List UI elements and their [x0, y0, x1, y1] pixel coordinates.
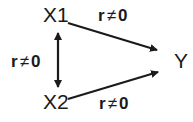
- node-x1: X1: [43, 4, 69, 25]
- node-x2: X2: [43, 91, 69, 112]
- not-equal-sign: ≠: [107, 6, 116, 25]
- node-x2-label: X2: [43, 90, 69, 113]
- correlation-symbol: r: [11, 52, 18, 71]
- node-y-label: Y: [174, 49, 188, 72]
- node-y: Y: [174, 50, 188, 71]
- zero-value: 0: [119, 94, 128, 113]
- zero-value: 0: [31, 52, 40, 71]
- node-x1-label: X1: [43, 3, 69, 26]
- correlation-symbol: r: [99, 94, 106, 113]
- edge-label-x2-y: r≠0: [99, 95, 128, 112]
- arrow-x1-to-y: [68, 23, 157, 50]
- edge-label-x1-x2: r≠0: [11, 53, 40, 70]
- not-equal-sign: ≠: [20, 52, 29, 71]
- edge-label-x1-y: r≠0: [98, 7, 127, 24]
- zero-value: 0: [118, 6, 127, 25]
- path-diagram: X1 X2 Y r≠0 r≠0 r≠0: [0, 0, 193, 122]
- not-equal-sign: ≠: [108, 94, 117, 113]
- correlation-symbol: r: [98, 6, 105, 25]
